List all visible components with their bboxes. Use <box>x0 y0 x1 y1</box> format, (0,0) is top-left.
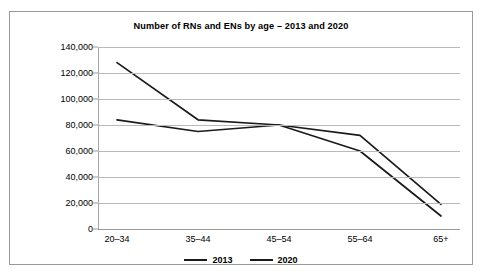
series-lines <box>98 47 460 229</box>
gridline <box>98 151 460 152</box>
gridline <box>98 177 460 178</box>
gridline <box>98 73 460 74</box>
x-axis-labels: 20–3435–4445–5455–6465+ <box>98 234 460 250</box>
gridline <box>98 125 460 126</box>
legend-item-2020[interactable]: 2020 <box>250 255 298 265</box>
gridline <box>98 203 460 204</box>
y-tick-label: 20,000 <box>65 198 93 208</box>
gridline <box>98 99 460 100</box>
gridline <box>98 229 460 230</box>
gridline <box>98 47 460 48</box>
x-tick-label: 35–44 <box>185 234 210 244</box>
legend-label: 2013 <box>212 255 232 265</box>
series-line-2020 <box>117 120 441 205</box>
series-line-2013 <box>117 63 441 216</box>
plot-area <box>98 47 460 229</box>
legend-swatch-icon <box>250 259 273 261</box>
x-tick-label: 65+ <box>433 234 448 244</box>
legend-item-2013[interactable]: 2013 <box>184 255 232 265</box>
legend-swatch-icon <box>184 259 207 261</box>
y-tick-label: 40,000 <box>65 172 93 182</box>
y-tick-label: 80,000 <box>65 120 93 130</box>
y-tick-label: 100,000 <box>60 94 93 104</box>
y-axis-labels: 020,00040,00060,00080,000100,000120,0001… <box>10 47 93 229</box>
y-tick-label: 60,000 <box>65 146 93 156</box>
x-tick-label: 20–34 <box>104 234 129 244</box>
chart-title: Number of RNs and ENs by age – 2013 and … <box>10 21 472 31</box>
chart-figure: Number of RNs and ENs by age – 2013 and … <box>9 11 473 265</box>
chart-legend: 20132020 <box>10 255 472 265</box>
x-tick-label: 55–64 <box>347 234 372 244</box>
y-tick-label: 120,000 <box>60 68 93 78</box>
legend-label: 2020 <box>278 255 298 265</box>
x-tick-label: 45–54 <box>266 234 291 244</box>
y-tick-label: 140,000 <box>60 42 93 52</box>
